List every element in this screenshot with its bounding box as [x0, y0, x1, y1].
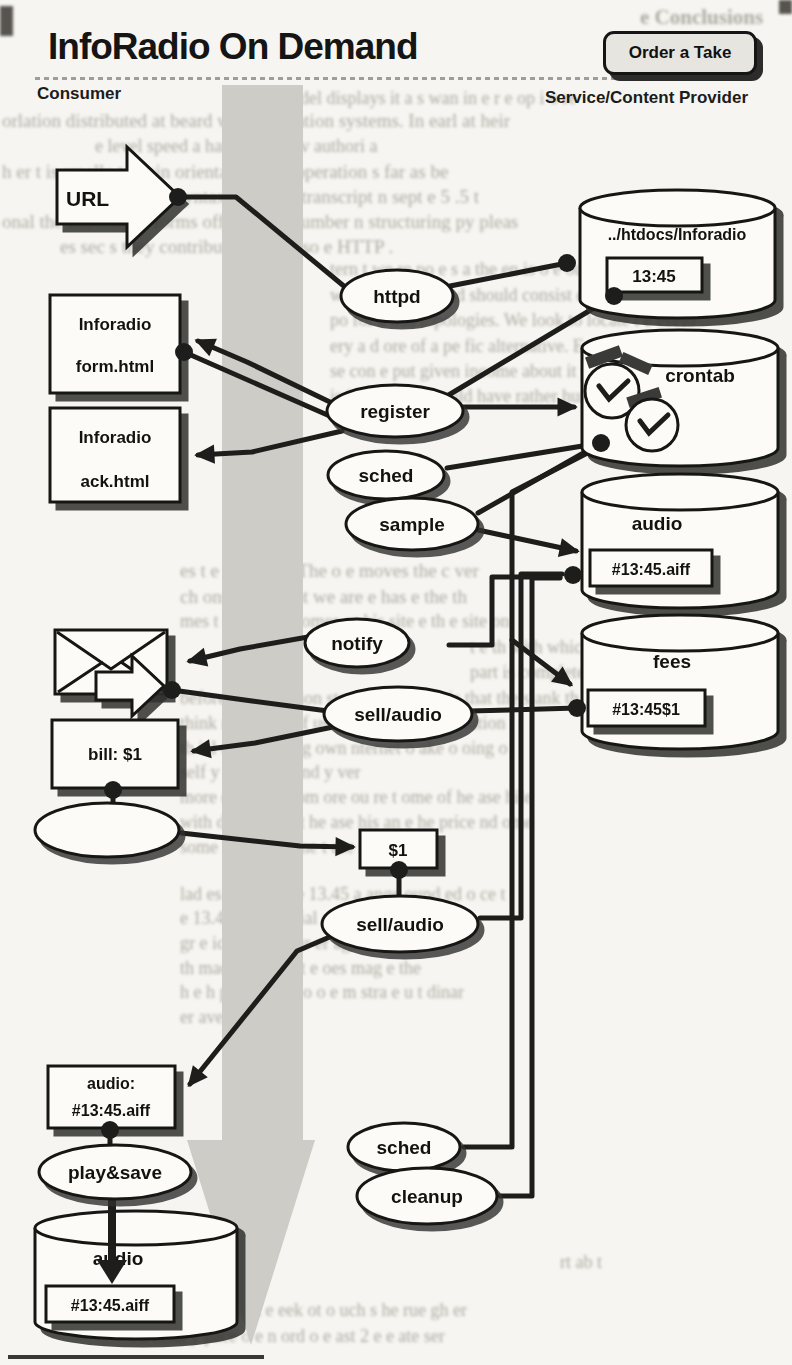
- ack-html-box: Inforadio ack.html: [50, 408, 180, 502]
- inforadio-diagram: ../htdocs/Inforadio 13:45 crontab audio: [0, 0, 792, 1365]
- sched2-label: sched: [377, 1137, 432, 1158]
- register-label: register: [360, 401, 430, 422]
- play-save-process: play&save: [39, 1145, 191, 1199]
- consumer-label: Consumer: [37, 84, 121, 104]
- bottom-rule: [8, 1355, 264, 1359]
- ack-line2: ack.html: [81, 472, 150, 491]
- register-process: register: [327, 385, 463, 437]
- audio-database-cylinder: audio: [582, 474, 778, 608]
- fee-entry-label: #13:45$1: [612, 701, 680, 718]
- header-divider: [35, 77, 641, 80]
- cleanup-process: cleanup: [357, 1168, 497, 1224]
- sell-audio-label: sell/audio: [354, 704, 442, 725]
- audio-take-label: #13:45.aiff: [612, 561, 691, 578]
- form-html-box: Inforadio form.html: [50, 295, 180, 393]
- sched2-process: sched: [348, 1123, 460, 1171]
- notify-process: notify: [305, 619, 409, 667]
- fees-db-label: fees: [653, 651, 691, 672]
- provider-label: Service/Content Provider: [545, 88, 748, 108]
- sell-audio2-process: sell/audio: [322, 896, 478, 952]
- take-1345-box: 13:45: [607, 258, 702, 292]
- sched-process: sched: [328, 451, 444, 499]
- notify-label: notify: [331, 633, 383, 654]
- play-save-label: play&save: [68, 1162, 162, 1183]
- url-arrow-icon: URL: [57, 147, 180, 247]
- scan-artifact: [0, 6, 13, 36]
- url-label: URL: [66, 187, 109, 210]
- audio-take-box: #13:45.aiff: [590, 550, 712, 586]
- bill-box: bill: $1: [52, 720, 178, 788]
- httpd-process: httpd: [341, 270, 453, 322]
- sample-process: sample: [346, 498, 478, 550]
- local-take-label: #13:45.aiff: [71, 1297, 150, 1314]
- local-take-box: #13:45.aiff: [46, 1286, 174, 1322]
- audio-order-line1: audio:: [87, 1075, 135, 1092]
- cash-label: $1: [389, 841, 408, 860]
- scanned-page: e Conclusionsdel displays it a s wan in …: [0, 0, 792, 1365]
- form-line2: form.html: [76, 357, 154, 376]
- bill-label: bill: $1: [88, 745, 142, 764]
- htdocs-path-label: ../htdocs/Inforadio: [608, 226, 747, 243]
- sched-label: sched: [359, 465, 414, 486]
- sell-audio2-label: sell/audio: [356, 914, 444, 935]
- wallet-process: [35, 803, 179, 857]
- ack-line1: Inforadio: [79, 428, 152, 447]
- sample-label: sample: [379, 514, 444, 535]
- page-title: InfoRadio On Demand: [48, 26, 418, 68]
- take-1345-label: 13:45: [632, 267, 675, 286]
- httpd-label: httpd: [373, 286, 420, 307]
- form-line1: Inforadio: [79, 315, 152, 334]
- scan-artifact: [779, 0, 792, 14]
- fee-entry-box: #13:45$1: [588, 690, 705, 726]
- sell-audio-process: sell/audio: [324, 687, 472, 741]
- audio-order-line2: #13:45.aiff: [72, 1102, 151, 1119]
- cleanup-label: cleanup: [391, 1186, 463, 1207]
- order-a-take-label: Order a Take: [629, 43, 732, 63]
- fees-database-cylinder: fees: [582, 615, 778, 749]
- audio-order-box: audio: #13:45.aiff: [48, 1066, 175, 1128]
- order-a-take-button[interactable]: Order a Take: [603, 31, 757, 75]
- crontab-label: crontab: [665, 365, 735, 386]
- audio-db-label: audio: [632, 513, 683, 534]
